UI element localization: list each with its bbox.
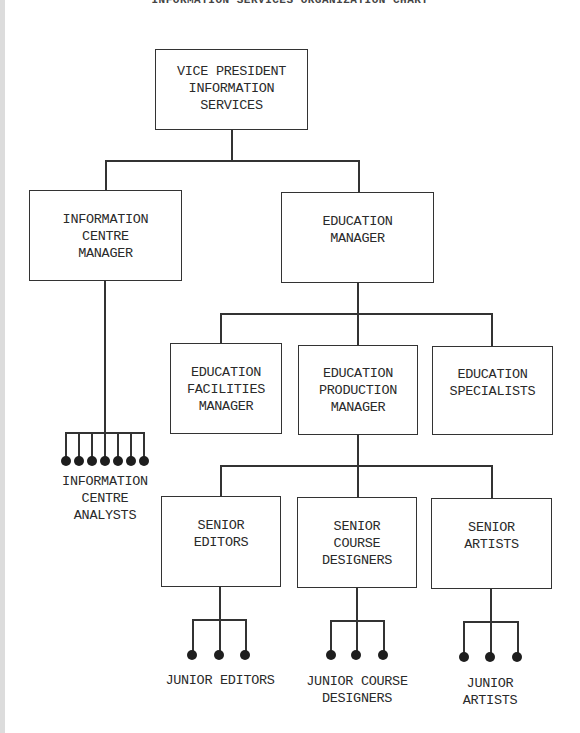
group-label-junior-course-designers: JUNIOR COURSE DESIGNERS [292,673,422,707]
connector-to-senior-course [357,465,359,497]
connector-production-down [357,434,359,465]
connector-to-specialists [491,313,493,346]
node-senior-course-designers: SENIOR COURSE DESIGNERS [297,497,417,588]
junior-editor-dot [214,650,224,660]
connector-jr-course [356,600,358,655]
group-label-junior-artists: JUNIOR ARTISTS [425,675,555,709]
junior-course-designer-dot [351,650,361,660]
junior-editor-dot [240,650,250,660]
node-education-specialists: EDUCATION SPECIALISTS [432,346,553,435]
junior-artist-dot [485,652,495,662]
node-label: EDUCATION SPECIALISTS [450,366,536,400]
junior-artist-dot [512,652,522,662]
node-label: EDUCATION MANAGER [322,213,392,247]
node-label: EDUCATION FACILITIES MANAGER [187,364,265,415]
connector-ic-manager-down [104,280,106,433]
connector-to-production [357,313,359,345]
node-label: VICE PRESIDENT INFORMATION SERVICES [177,63,286,114]
page-binding-edge [0,0,5,733]
connector-to-ed-manager [358,160,360,192]
node-education-facilities-manager: EDUCATION FACILITIES MANAGER [170,343,282,434]
connector-vp-down [231,129,233,160]
connector-level2-bar [220,313,492,315]
analyst-dot [87,456,97,466]
connector-jr-editor [219,600,221,655]
junior-course-designer-dot [326,650,336,660]
connector-level3-bar [220,465,492,467]
node-information-centre-manager: INFORMATION CENTRE MANAGER [29,190,182,281]
page-title: INFORMATION SERVICES ORGANIZATION CHART [140,0,440,6]
node-label: INFORMATION CENTRE MANAGER [63,211,149,262]
node-label: EDUCATION PRODUCTION MANAGER [319,365,397,416]
analyst-dot [139,456,149,466]
group-label-information-centre-analysts: INFORMATION CENTRE ANALYSTS [40,473,170,524]
junior-editor-dot [187,650,197,660]
junior-artist-dot [459,652,469,662]
connector-jr-artist [490,600,492,657]
analyst-dot [100,456,110,466]
analyst-dot [126,456,136,466]
analyst-dot [74,456,84,466]
node-label: SENIOR EDITORS [194,517,249,551]
node-senior-artists: SENIOR ARTISTS [431,498,552,589]
node-vice-president: VICE PRESIDENT INFORMATION SERVICES [155,49,308,130]
node-education-production-manager: EDUCATION PRODUCTION MANAGER [298,345,418,435]
node-education-manager: EDUCATION MANAGER [281,192,434,283]
analyst-dot [113,456,123,466]
junior-course-designer-dot [378,650,388,660]
connector-to-facilities [220,313,222,343]
connector-ed-manager-down [357,282,359,313]
node-label: SENIOR ARTISTS [464,519,519,553]
group-label-junior-editors: JUNIOR EDITORS [155,672,285,689]
connector-level1-bar [105,160,359,162]
node-senior-editors: SENIOR EDITORS [161,496,281,587]
analyst-dot [61,456,71,466]
connector-to-senior-editors [220,465,222,496]
node-label: SENIOR COURSE DESIGNERS [322,518,392,569]
connector-to-senior-artists [491,465,493,498]
connector-to-ic-manager [105,160,107,190]
